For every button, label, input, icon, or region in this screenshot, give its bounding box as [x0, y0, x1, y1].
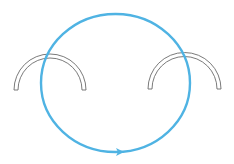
current-loop: [41, 14, 190, 152]
diagram-svg: [0, 0, 234, 164]
diagram-canvas: [0, 0, 234, 164]
left-semicircular-conductor: [14, 54, 86, 90]
